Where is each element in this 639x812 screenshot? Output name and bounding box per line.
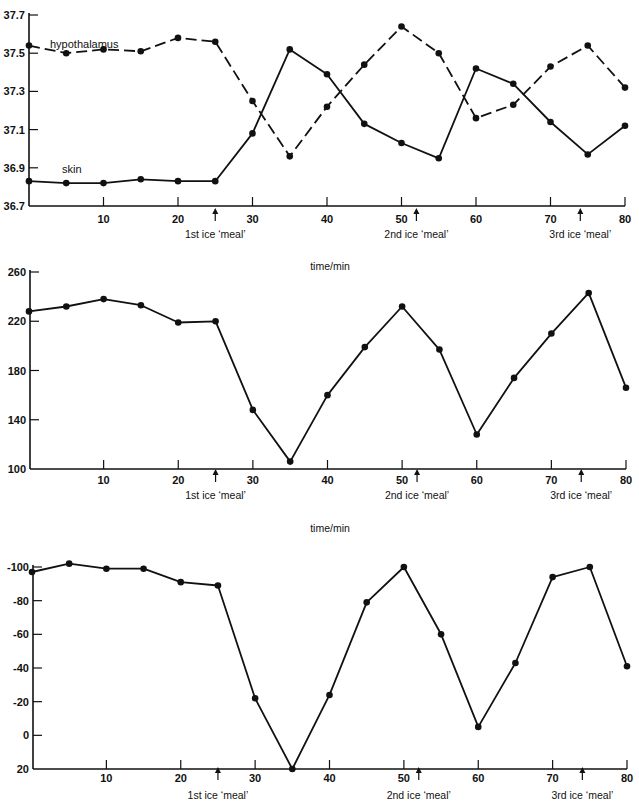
arrow-head-icon	[579, 767, 585, 773]
arrow-head-icon	[213, 469, 219, 475]
y-tick-label: 220	[8, 315, 26, 327]
ice-meal-annotation: 1st ice ‘meal’	[188, 789, 249, 801]
data-point	[249, 98, 256, 105]
y-tick-label: 36.9	[4, 162, 25, 174]
ice-meal-annotation: 2nd ice ‘meal’	[387, 789, 451, 801]
data-point	[622, 84, 629, 91]
x-tick-label: 40	[323, 772, 335, 784]
ice-meal-annotation: 3rd ice ‘meal’	[549, 228, 611, 240]
series-label: hypothalamus	[50, 38, 119, 50]
data-point	[286, 153, 293, 160]
series-line-series	[32, 564, 627, 769]
data-point	[212, 38, 219, 45]
x-tick-label: 50	[395, 213, 407, 225]
x-tick-label: 40	[321, 474, 333, 486]
data-point	[401, 564, 408, 571]
data-point	[63, 50, 70, 57]
arrow-head-icon	[414, 469, 420, 475]
ice-meal-annotation: 3rd ice ‘meal’	[551, 789, 613, 801]
x-tick-label: 20	[175, 772, 187, 784]
data-point	[100, 296, 107, 303]
data-point	[511, 375, 518, 382]
figure-canvas: 37.737.537.337.136.936.71020304050607080…	[0, 0, 639, 812]
y-tick-label: 140	[8, 414, 26, 426]
ice-meal-annotation: 1st ice ‘meal’	[185, 228, 246, 240]
y-tick-label: -100	[7, 561, 29, 573]
series-line-series	[29, 293, 626, 462]
arrow-head-icon	[416, 767, 422, 773]
x-tick-label: 60	[472, 772, 484, 784]
data-point	[26, 308, 33, 315]
data-point	[140, 565, 147, 572]
arrow-head-icon	[577, 208, 583, 214]
data-point	[29, 569, 36, 576]
x-tick-label: 10	[100, 772, 112, 784]
data-point	[324, 103, 331, 110]
x-tick-label: 10	[98, 474, 110, 486]
arrow-head-icon	[578, 469, 584, 475]
x-axis-label: time/min	[310, 260, 350, 272]
x-tick-label: 50	[396, 474, 408, 486]
data-point	[286, 46, 293, 53]
data-point	[326, 692, 333, 699]
bottom-chart: -100-80-60-40-2002010203040506070801st i…	[7, 560, 633, 801]
data-point	[287, 458, 294, 465]
data-point	[324, 71, 331, 78]
data-point	[473, 431, 480, 438]
middle-chart: 26022018014010010203040506070801st ice ‘…	[8, 266, 632, 534]
data-point	[26, 42, 33, 49]
data-point	[138, 302, 145, 309]
data-point	[438, 631, 445, 638]
data-point	[398, 140, 405, 147]
data-point	[137, 176, 144, 183]
data-point	[584, 151, 591, 158]
data-point	[175, 178, 182, 185]
data-point	[252, 695, 259, 702]
data-point	[435, 50, 442, 57]
data-point	[212, 318, 219, 325]
data-point	[585, 290, 592, 297]
data-point	[547, 63, 554, 70]
y-tick-label: 260	[8, 266, 26, 278]
data-point	[584, 42, 591, 49]
x-tick-label: 30	[246, 213, 258, 225]
data-point	[436, 346, 443, 353]
series-label: skin	[62, 163, 82, 175]
y-tick-label: 37.3	[4, 85, 25, 97]
x-tick-label: 80	[621, 772, 633, 784]
data-point	[324, 392, 331, 399]
data-point	[212, 178, 219, 185]
series-line-skin	[29, 49, 625, 183]
x-tick-label: 80	[619, 213, 631, 225]
data-point	[473, 115, 480, 122]
data-point	[249, 130, 256, 137]
data-point	[250, 407, 257, 414]
x-tick-label: 30	[247, 474, 259, 486]
y-tick-label: -60	[13, 628, 29, 640]
x-tick-label: 30	[249, 772, 261, 784]
data-point	[549, 574, 556, 581]
data-point	[623, 384, 630, 391]
arrow-head-icon	[413, 208, 419, 214]
x-tick-label: 10	[97, 213, 109, 225]
data-point	[100, 180, 107, 187]
x-tick-label: 60	[471, 474, 483, 486]
data-point	[63, 303, 70, 310]
data-point	[510, 80, 517, 87]
x-tick-label: 50	[398, 772, 410, 784]
data-point	[473, 65, 480, 72]
data-point	[548, 330, 555, 337]
data-point	[289, 766, 296, 773]
ice-meal-annotation: 1st ice ‘meal’	[185, 489, 246, 501]
x-tick-label: 20	[172, 213, 184, 225]
temperature-chart: 37.737.537.337.136.936.71020304050607080…	[4, 9, 632, 272]
data-point	[398, 23, 405, 30]
data-point	[63, 180, 70, 187]
arrow-head-icon	[212, 208, 218, 214]
data-point	[587, 564, 594, 571]
data-point	[435, 155, 442, 162]
data-point	[512, 660, 519, 667]
data-point	[361, 61, 368, 68]
ice-meal-annotation: 2nd ice ‘meal’	[384, 228, 448, 240]
data-point	[363, 599, 370, 606]
